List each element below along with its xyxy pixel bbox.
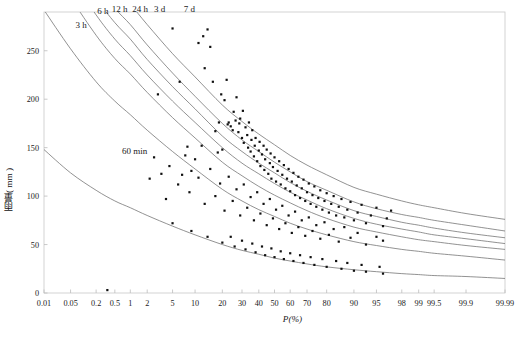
data-point — [223, 210, 225, 212]
curve-label: 60 min — [122, 146, 148, 156]
x-tick-label: 2 — [145, 299, 149, 308]
data-point — [269, 198, 271, 200]
data-point — [288, 168, 290, 170]
curve-label: 12 h — [112, 4, 128, 14]
y-tick-label: 250 — [27, 47, 39, 56]
y-tick-label: 200 — [27, 95, 39, 104]
data-point — [275, 209, 277, 211]
data-point — [306, 191, 308, 193]
data-point — [204, 67, 206, 69]
data-point — [259, 141, 261, 143]
x-tick-label: 0.2 — [91, 299, 101, 308]
data-point — [254, 251, 256, 253]
data-point — [212, 81, 214, 83]
data-point — [310, 203, 312, 205]
x-tick-label: 80 — [323, 299, 331, 308]
x-tick-label: 60 — [286, 299, 294, 308]
data-point — [171, 27, 173, 29]
data-point — [266, 148, 268, 150]
data-point — [262, 203, 264, 205]
data-point — [254, 137, 256, 139]
data-point — [165, 198, 167, 200]
data-point — [264, 254, 266, 256]
data-point — [206, 236, 208, 238]
data-point — [234, 119, 236, 121]
data-point — [311, 230, 313, 232]
data-point — [184, 154, 186, 156]
data-point — [360, 264, 362, 266]
data-point — [221, 148, 223, 150]
data-point — [246, 134, 248, 136]
duration-curve — [44, 0, 505, 238]
data-point — [315, 224, 317, 226]
data-point — [263, 169, 265, 171]
data-point — [330, 203, 332, 205]
data-point — [171, 222, 173, 224]
x-tick-label: 50 — [270, 299, 278, 308]
data-point — [360, 204, 362, 206]
data-point — [319, 238, 321, 240]
data-point — [289, 252, 291, 254]
duration-curve — [44, 10, 505, 260]
data-point — [308, 182, 310, 184]
data-point — [250, 139, 252, 141]
data-point — [365, 271, 367, 273]
x-tick-label: 95 — [372, 299, 380, 308]
data-point — [202, 35, 204, 37]
data-point — [168, 165, 170, 167]
data-point — [302, 262, 304, 264]
data-point — [250, 196, 252, 198]
x-tick-label: 0.01 — [37, 299, 51, 308]
duration-curve — [44, 0, 505, 244]
data-point — [326, 266, 328, 268]
data-point — [242, 110, 244, 112]
data-point — [177, 183, 179, 185]
data-point — [246, 207, 248, 209]
data-point — [259, 212, 261, 214]
curve-labels: 60 min3 h6 h12 h24 h3 d7 d — [75, 4, 195, 156]
data-point — [219, 182, 221, 184]
data-point — [256, 191, 258, 193]
data-point — [250, 150, 252, 152]
data-point — [153, 156, 155, 158]
data-point — [254, 145, 256, 147]
data-point — [244, 126, 246, 128]
data-point — [291, 180, 293, 182]
data-point — [217, 151, 219, 153]
data-point — [313, 264, 315, 266]
data-point — [301, 187, 303, 189]
x-tick-label: 30 — [238, 299, 246, 308]
data-point — [333, 195, 335, 197]
data-point — [323, 221, 325, 223]
data-point — [302, 179, 304, 181]
data-point — [294, 211, 296, 213]
data-point — [241, 240, 243, 242]
data-point — [232, 129, 234, 131]
data-point — [340, 268, 342, 270]
data-point — [253, 219, 255, 221]
y-tick-label: 150 — [27, 144, 39, 153]
data-point — [326, 192, 328, 194]
data-point — [365, 222, 367, 224]
data-point — [241, 137, 243, 139]
y-tick-label: 0 — [35, 289, 39, 298]
x-tick-label: 70 — [303, 299, 311, 308]
x-tick-label: 98 — [398, 299, 406, 308]
chart-root: 050100150200250 0.010.050.20.51251020304… — [0, 0, 518, 342]
data-point — [272, 217, 274, 219]
data-point — [253, 155, 255, 157]
data-point — [238, 122, 240, 124]
data-point — [237, 131, 239, 133]
data-point — [353, 270, 355, 272]
data-point — [269, 162, 271, 164]
data-point — [188, 191, 190, 193]
data-point — [382, 273, 384, 275]
data-point — [321, 209, 323, 211]
data-point — [319, 189, 321, 191]
data-point — [270, 247, 272, 249]
data-point — [317, 197, 319, 199]
data-point — [321, 258, 323, 260]
data-point — [280, 183, 282, 185]
data-point — [357, 211, 359, 213]
y-axis-title: 雨量( mm ) — [2, 168, 16, 211]
